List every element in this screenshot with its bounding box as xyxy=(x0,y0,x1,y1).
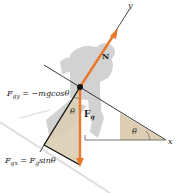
fgx-sub: gx xyxy=(11,159,18,166)
origin-dot xyxy=(77,84,83,90)
skier-free-body-diagram: y x N Fg θ θ Fgy = −mgcosθ Fgx = Fgsinθ xyxy=(0,0,182,193)
fgx-equation: Fgx = Fgsinθ xyxy=(5,157,56,166)
fgy-rhs: = −mgcosθ xyxy=(20,89,69,98)
fgy-equation: Fgy = −mgcosθ xyxy=(7,90,69,99)
gravity-subscript: g xyxy=(90,113,94,120)
gravity-force-label: Fg xyxy=(84,110,95,120)
normal-force-label: N xyxy=(102,52,109,60)
y-axis-label: y xyxy=(128,2,133,10)
fgy-sub: gy xyxy=(13,92,20,99)
theta-left-label: θ xyxy=(70,108,75,116)
fgx-mid: = F xyxy=(18,156,35,165)
ski-pole-icon xyxy=(20,110,50,118)
fgx-rhs: sinθ xyxy=(39,156,56,165)
slope-angle-triangle xyxy=(120,113,165,140)
theta-right-label: θ xyxy=(132,128,137,136)
x-axis-label: x xyxy=(168,138,173,146)
